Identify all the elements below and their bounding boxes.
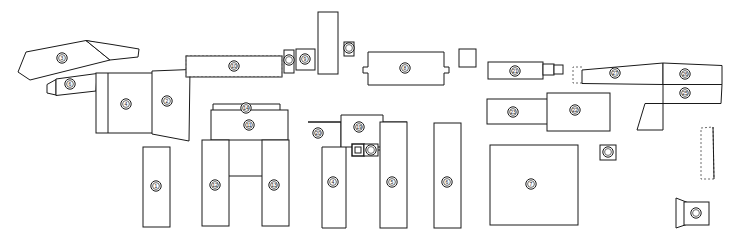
- callout-marker-23[interactable]: 23: [508, 107, 518, 117]
- callout-marker-label: 6: [446, 179, 449, 185]
- part-angled-foot-right[interactable]: [637, 104, 663, 131]
- callout-marker-label: 5: [391, 179, 394, 185]
- callout-marker-label: 21: [512, 68, 518, 74]
- callout-marker-label: 20: [315, 130, 321, 136]
- part-square-connector-dark[interactable]: [352, 144, 364, 156]
- callout-marker-label: 1: [155, 183, 158, 189]
- callout-marker-14[interactable]: 14: [241, 103, 251, 113]
- callout-marker-6[interactable]: 6: [442, 177, 452, 187]
- callout-marker-25[interactable]: 25: [680, 88, 690, 98]
- callout-marker-21[interactable]: 21: [510, 66, 520, 76]
- callout-marker-label: 2: [166, 98, 169, 104]
- callout-marker-6[interactable]: 6: [65, 79, 75, 89]
- part-small-square-center-right[interactable]: [459, 49, 476, 67]
- part-tall-vertical-plate[interactable]: [318, 12, 338, 74]
- callout-marker-2[interactable]: 2: [162, 96, 172, 106]
- callout-marker-1[interactable]: 1: [151, 181, 161, 191]
- part-small-bar-left[interactable]: [56, 74, 97, 96]
- callout-marker-label: 26: [682, 71, 688, 77]
- callout-marker-27[interactable]: 27: [610, 68, 620, 78]
- callout-marker-marker-box-adjacent[interactable]: [366, 145, 376, 155]
- callout-marker-label: 14: [243, 105, 249, 111]
- callout-marker-7[interactable]: 7: [526, 179, 536, 189]
- callout-marker-label: 8: [404, 65, 407, 71]
- callout-marker-13[interactable]: 13: [269, 180, 279, 190]
- part-panel-mid-left[interactable]: [152, 70, 190, 142]
- callout-marker-8[interactable]: 8: [400, 63, 410, 73]
- callout-marker-label: 27: [612, 70, 618, 76]
- callout-marker-label: 13: [271, 182, 277, 188]
- callout-marker-label: 19: [356, 124, 362, 130]
- callout-marker-3[interactable]: 3: [57, 53, 67, 63]
- callout-marker-22[interactable]: 22: [570, 105, 580, 115]
- part-tab-left-small[interactable]: [47, 80, 56, 96]
- part-tall-panel-center[interactable]: [434, 123, 461, 228]
- part-l-shape-lower-mid[interactable]: [308, 122, 346, 228]
- part-slanted-band-right-b[interactable]: [663, 63, 722, 85]
- callout-marker-12[interactable]: 12: [210, 180, 220, 190]
- callout-marker-label: 25: [682, 90, 688, 96]
- part-slanted-band-right-a[interactable]: [582, 63, 663, 85]
- part-dashed-tall-strip-right: [701, 127, 714, 179]
- callout-marker-small-tab-upper[interactable]: [344, 43, 354, 53]
- callout-marker-10[interactable]: 10: [229, 61, 239, 71]
- part-panel-right-of-l[interactable]: [380, 122, 407, 228]
- callout-marker-small-marker-box-right[interactable]: [603, 147, 613, 157]
- callout-marker-label: 11: [246, 122, 251, 128]
- callout-marker-arrow-flag-box[interactable]: [691, 208, 701, 218]
- callout-marker-26[interactable]: 26: [680, 69, 690, 79]
- callout-marker-connector-block-small[interactable]: [284, 55, 294, 65]
- callout-marker-4[interactable]: 4: [121, 99, 131, 109]
- callout-marker-label: 9: [304, 56, 307, 62]
- callout-marker-9[interactable]: 9: [300, 54, 310, 64]
- part-dashed-notch-right: [573, 67, 582, 83]
- callout-marker-label: 3: [61, 55, 64, 61]
- callout-marker-19[interactable]: 19: [354, 122, 364, 132]
- callout-marker-5[interactable]: 5: [387, 177, 397, 187]
- callout-marker-label: 4: [332, 179, 335, 185]
- callout-marker-label: 6: [69, 81, 72, 87]
- callout-marker-label: 23: [510, 109, 516, 115]
- callout-marker-label: 4: [125, 101, 128, 107]
- callout-marker-20[interactable]: 20: [313, 128, 323, 138]
- part-slanted-band-right-c[interactable]: [663, 85, 722, 104]
- technical-drawing: 3642109821272625232267141112131420195: [0, 0, 731, 238]
- callout-marker-4[interactable]: 4: [328, 177, 338, 187]
- callout-marker-label: 10: [231, 63, 237, 69]
- part-tab-upper-right[interactable]: [543, 64, 563, 75]
- callout-marker-11[interactable]: 11: [244, 120, 254, 130]
- drawing-canvas: 3642109821272625232267141112131420195: [0, 0, 731, 238]
- callout-marker-label: 12: [212, 182, 218, 188]
- callout-marker-label: 22: [572, 107, 578, 113]
- callout-marker-label: 7: [530, 181, 533, 187]
